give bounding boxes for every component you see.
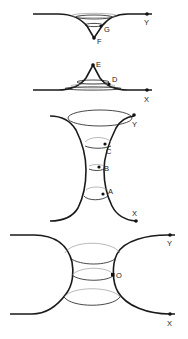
point-y bbox=[132, 113, 136, 117]
point-a bbox=[101, 192, 104, 195]
ring bbox=[64, 297, 120, 305]
label-g: G bbox=[104, 25, 110, 34]
curve-x-line bbox=[33, 65, 152, 90]
label-e: E bbox=[96, 60, 101, 69]
ring-back bbox=[72, 268, 114, 275]
label-d: D bbox=[112, 75, 118, 84]
ring bbox=[72, 275, 114, 280]
ring bbox=[76, 15, 112, 19]
ring bbox=[84, 196, 108, 200]
label-x: X bbox=[167, 319, 172, 328]
label-x: X bbox=[132, 209, 137, 218]
label-o: O bbox=[116, 271, 122, 280]
point-b bbox=[97, 165, 100, 168]
ring bbox=[70, 258, 116, 264]
label-y: Y bbox=[144, 18, 149, 27]
point-x bbox=[145, 88, 149, 92]
diagram-canvas: Y G F X D E Y X C B A bbox=[0, 0, 188, 339]
point-g bbox=[99, 24, 102, 27]
tube-left-curve bbox=[50, 116, 86, 221]
ring-back bbox=[64, 289, 120, 297]
label-a: A bbox=[108, 187, 113, 196]
figure-1: Y G F bbox=[33, 12, 152, 46]
label-f: F bbox=[97, 37, 102, 46]
point-o bbox=[111, 273, 115, 277]
right-boundary-curve bbox=[113, 235, 175, 314]
point-x bbox=[168, 312, 172, 316]
label-y: Y bbox=[132, 120, 137, 129]
ring-top bbox=[68, 110, 132, 126]
ring-back bbox=[86, 187, 108, 190]
figure-4: Y X O bbox=[10, 233, 175, 328]
ring-back bbox=[85, 138, 111, 143]
figure-3: Y X C B A bbox=[50, 110, 138, 223]
ring bbox=[89, 169, 104, 171]
left-boundary-curve bbox=[10, 235, 73, 314]
point-e bbox=[91, 63, 95, 67]
label-x: X bbox=[144, 95, 149, 104]
ring bbox=[65, 87, 121, 90]
point-d bbox=[107, 82, 110, 85]
point-c bbox=[103, 142, 106, 145]
point-f bbox=[92, 36, 96, 40]
ring-back bbox=[89, 165, 104, 167]
label-y: Y bbox=[167, 239, 172, 248]
figure-2: X D E bbox=[33, 60, 152, 104]
point-x bbox=[134, 219, 138, 223]
label-b: B bbox=[104, 164, 109, 173]
label-c: C bbox=[106, 147, 112, 156]
point-y bbox=[168, 233, 172, 237]
ring-back bbox=[65, 243, 120, 253]
point-y bbox=[145, 12, 149, 16]
